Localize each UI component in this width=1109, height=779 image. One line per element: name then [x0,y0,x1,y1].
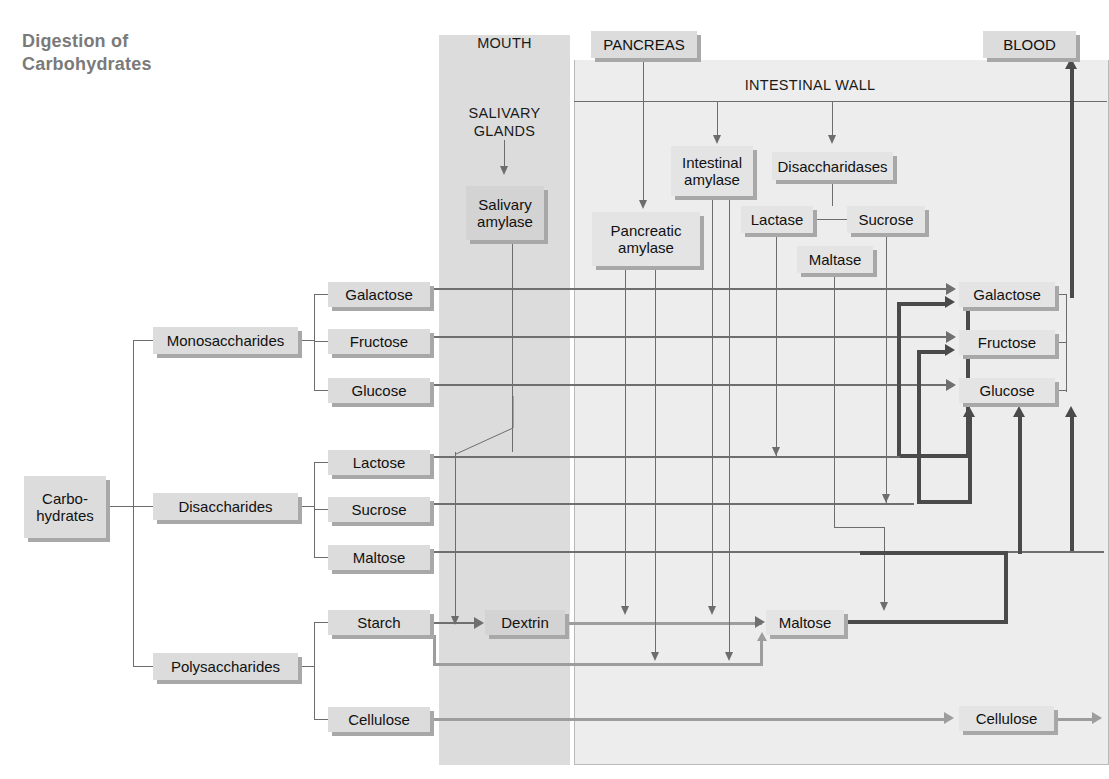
salivary-glands-arrowhead-icon [500,166,508,175]
di-branch-lactose [314,462,328,463]
dextrin-box: Dextrin [485,610,565,635]
fructose-secondary-arrowhead-icon [945,344,955,356]
salivary-amylase-diagonal [450,396,520,458]
page-title: Digestion of Carbohydrates [22,30,152,76]
sucrose-enzyme-label: Sucrose [858,211,913,228]
substrate-lactose-label: Lactose [353,454,406,471]
intestinal-wall-top-rule [574,101,1107,102]
pancreas-label: PANCREAS [603,36,684,53]
glucose-inflow-arrowhead-1-icon [963,406,975,417]
sucrose-split-glucose-riser [968,414,972,504]
salivary-glands-label: SALIVARY GLANDS [439,104,570,140]
root-connector [106,506,133,507]
lactose-split-galactose-run [897,302,947,306]
blood-box: BLOOD [983,31,1076,58]
intestinal-amylase-stem [717,101,718,137]
disaccharidases-stem [832,101,833,137]
flow-dextrin-to-maltose [569,622,762,625]
product-cellulose-box: Cellulose [959,706,1054,731]
mouth-label: MOUTH [439,34,570,52]
flow-fructose-arrowhead-icon [946,331,956,343]
salivary-amylase-arrowhead-icon [451,616,459,625]
flow-galactose-main [434,288,948,290]
monosaccharides-label: Monosaccharides [167,332,285,349]
product-galactose-box: Galactose [959,282,1055,307]
salivary-amylase-label: Salivary amylase [477,196,533,230]
intestinal-amylase-arrowhead-icon [713,135,721,144]
flow-glucose-arrowhead-icon [946,379,956,391]
pancreas-stem [643,58,644,202]
lactase-label: Lactase [751,211,804,228]
substrate-sucrose-box: Sucrose [328,497,430,522]
intestinal-amylase-arrow-1-icon [708,606,716,615]
sucrase-arrowhead-icon [882,494,890,503]
monosaccharides-box: Monosaccharides [153,327,298,354]
lactase-box: Lactase [741,206,813,233]
di-connector [133,506,153,507]
starch-bypass-down [433,635,436,666]
maltase-action-line [834,273,835,527]
di-branch-sucrose [314,509,328,510]
glucose-inflow-arrowhead-3-icon [1065,406,1077,417]
lactase-arrowhead-icon [772,447,780,456]
di-branch-spine [314,462,315,558]
polysaccharides-label: Polysaccharides [171,658,280,675]
poly-branch-spine [314,622,315,720]
maltose-to-glucose-run [848,620,1008,624]
maltase-label: Maltase [809,251,862,268]
maltase-arrowhead-icon [880,602,888,611]
maltose-to-glucose-riser-b [1018,414,1022,554]
flow-sucrose-main [434,503,914,505]
blood-label: BLOOD [1003,36,1056,53]
product-glucose-label: Glucose [979,382,1034,399]
lactose-split-jog [900,454,970,458]
carbohydrates-root-box: Carbo- hydrates [24,476,106,538]
flow-cellulose-main [434,718,946,721]
sucrose-split-base [917,500,972,504]
blood-riser [1070,68,1074,298]
pancreatic-amylase-action-1 [625,266,626,610]
di-branch-maltose [314,557,328,558]
product-fructose-label: Fructose [978,334,1036,351]
substrate-glucose-label: Glucose [351,382,406,399]
maltase-action-jog [834,527,884,528]
flow-lactose-main [434,456,969,458]
substrate-maltose-box: Maltose [328,545,430,570]
pancreatic-amylase-label: Pancreatic amylase [611,222,682,256]
intestinal-amylase-action-1 [712,196,713,610]
starch-bypass-right [433,663,763,666]
sucrase-action-line [886,233,887,503]
intestinal-amylase-arrow-2-icon [725,652,733,661]
disaccharides-box: Disaccharides [153,493,298,520]
product-cellulose-label: Cellulose [976,710,1038,727]
substrate-maltose-label: Maltose [353,549,406,566]
substrate-starch-box: Starch [328,610,430,635]
mono-connector [133,340,153,341]
flow-fructose-main [434,336,948,338]
intestinal-wall-label: INTESTINAL WALL [640,76,980,94]
flow-galactose-arrowhead-icon [946,283,956,295]
product-glucose-box: Glucose [959,378,1055,403]
mono-branch-fructose [314,341,328,342]
substrate-cellulose-box: Cellulose [328,707,430,732]
pancreatic-amylase-box: Pancreatic amylase [592,212,700,266]
substrate-glucose-box: Glucose [328,378,430,403]
maltase-box: Maltase [797,246,873,273]
mono-branch-spine [314,294,315,390]
poly-branch-starch [314,622,328,623]
flow-dextrin-arrowhead-icon [755,616,765,628]
product-galactose-label: Galactose [973,286,1041,303]
salivary-amylase-down-2 [455,452,456,620]
substrate-starch-label: Starch [357,614,400,631]
substrate-sucrose-label: Sucrose [351,501,406,518]
starch-bypass-up [760,640,763,665]
mono-branch-glucose [314,390,328,391]
substrate-cellulose-label: Cellulose [348,711,410,728]
poly-connector [133,666,153,667]
maltose-to-glucose-top-run [860,551,1008,555]
product-collector-spine [1066,294,1067,392]
disaccharides-label: Disaccharides [178,498,272,515]
disaccharidases-label: Disaccharidases [777,158,887,175]
substrate-galactose-label: Galactose [345,286,413,303]
flow-cellulose-exit-arrowhead-icon [1092,712,1102,724]
